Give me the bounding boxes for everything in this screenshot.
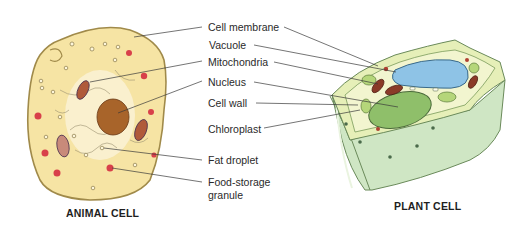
label-food-storage: Food-storage [208,176,270,188]
label-granule: granule [208,189,243,201]
label-cell-wall: Cell wall [208,97,247,109]
plant-cell-title: PLANT CELL [394,200,461,212]
label-mitochondria: Mitochondria [208,56,268,68]
label-cell-membrane: Cell membrane [208,21,279,33]
label-chloroplast: Chloroplast [208,123,261,135]
label-vacuole: Vacuole [209,39,246,51]
plant-cell [330,40,505,190]
animal-cell [28,28,166,200]
animal-cell-title: ANIMAL CELL [66,207,139,219]
cell-diagram [0,0,524,226]
label-nucleus: Nucleus [208,76,246,88]
label-fat-droplet: Fat droplet [208,154,258,166]
